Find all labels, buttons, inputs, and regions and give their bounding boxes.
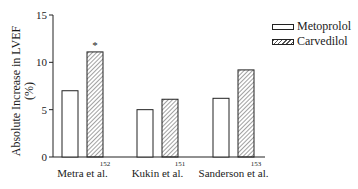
y-tick-label: 10 <box>36 56 48 68</box>
hatched-bar-swatch-icon <box>272 39 294 45</box>
legend-label: Metoprolol <box>297 19 351 34</box>
x-category-label: Kukin et al. <box>132 167 184 179</box>
legend-item-carvedilol: Carvedilol <box>272 34 351 49</box>
x-category-label: Sanderson et al. <box>199 167 269 179</box>
y-axis-label: Absolute Increase in LVEF (%) <box>10 16 36 166</box>
y-tick-label: 15 <box>36 9 48 21</box>
legend: Metoprolol Carvedilol <box>272 19 351 49</box>
bar-carvedilol <box>87 52 103 157</box>
reference-number: 152 <box>100 160 111 168</box>
y-tick-label: 0 <box>42 151 48 163</box>
y-tick-label: 5 <box>42 104 48 116</box>
reference-number: 151 <box>175 160 186 168</box>
legend-item-metoprolol: Metoprolol <box>272 19 351 34</box>
y-axis-label-line2: (%) <box>23 16 36 166</box>
legend-label: Carvedilol <box>297 34 348 49</box>
bar-metoprolol <box>137 110 153 157</box>
open-bar-swatch-icon <box>272 24 294 30</box>
bar-metoprolol <box>62 91 78 157</box>
bar-metoprolol <box>213 98 229 157</box>
bar-chart: 051015Metra et al.152Kukin et al.151Sand… <box>0 0 358 189</box>
bar-carvedilol <box>238 70 254 157</box>
reference-number: 153 <box>251 160 262 168</box>
x-category-label: Metra et al. <box>57 167 108 179</box>
significance-asterisk: * <box>92 39 98 51</box>
bar-carvedilol <box>162 99 178 157</box>
